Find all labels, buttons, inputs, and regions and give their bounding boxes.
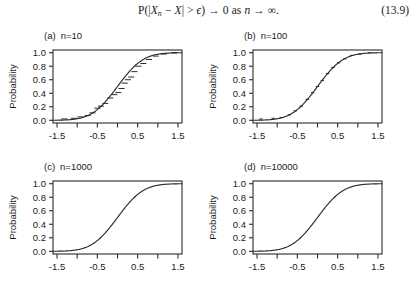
- panel-b-plot: 0.00.20.40.60.81.0Probability-1.5-0.50.5…: [200, 28, 408, 161]
- x-tick-label: -1.5: [249, 261, 265, 272]
- y-tick-label: 0.8: [233, 192, 246, 203]
- x-tick-label: 1.5: [371, 130, 384, 141]
- equation-gt: | >: [182, 4, 197, 16]
- y-tick-label: 0.4: [33, 88, 46, 99]
- y-axis-label: Probability: [207, 64, 218, 109]
- cdf-curve: [53, 53, 182, 121]
- y-tick-label: 0.8: [33, 192, 46, 203]
- y-tick-label: 0.0: [33, 246, 46, 257]
- cdf-curve: [253, 184, 382, 252]
- panel-a: (a)n=10 0.00.20.40.60.81.0Probability-1.…: [0, 28, 208, 161]
- x-tick-label: -0.5: [289, 261, 305, 272]
- y-tick-label: 0.4: [233, 88, 246, 99]
- equation-minus: −: [162, 4, 175, 16]
- panel-d: (d)n=10000 0.00.20.40.60.81.0Probability…: [200, 159, 408, 292]
- y-tick-label: 1.0: [233, 178, 246, 189]
- y-tick-label: 0.0: [233, 246, 246, 257]
- x-tick-label: 0.5: [331, 261, 344, 272]
- equation-to-infinity: → ∞.: [250, 4, 279, 16]
- y-tick-label: 0.2: [33, 101, 46, 112]
- y-tick-label: 0.2: [233, 101, 246, 112]
- x-tick-label: 0.5: [131, 130, 144, 141]
- y-tick-label: 0.4: [33, 219, 46, 230]
- x-tick-label: -1.5: [49, 130, 65, 141]
- equation-row: P(|Xn − X| > ϵ) → 0 as n → ∞. (13.9): [0, 0, 417, 28]
- panel-a-plot: 0.00.20.40.60.81.0Probability-1.5-0.50.5…: [0, 28, 208, 161]
- x-tick-label: 0.5: [131, 261, 144, 272]
- y-tick-label: 0.6: [33, 74, 46, 85]
- y-tick-label: 0.6: [233, 205, 246, 216]
- panel-b: (b)n=100 0.00.20.40.60.81.0Probability-1…: [200, 28, 408, 161]
- x-tick-label: -1.5: [249, 130, 265, 141]
- y-tick-label: 1.0: [33, 47, 46, 58]
- y-axis-label: Probability: [7, 195, 18, 240]
- y-tick-label: 0.0: [233, 115, 246, 126]
- panel-c: (c)n=1000 0.00.20.40.60.81.0Probability-…: [0, 159, 208, 292]
- y-tick-label: 0.8: [33, 61, 46, 72]
- y-tick-label: 1.0: [233, 47, 246, 58]
- x-tick-label: -0.5: [89, 130, 105, 141]
- empirical-step-marks: [259, 53, 371, 119]
- y-tick-label: 0.0: [33, 115, 46, 126]
- x-tick-label: 1.5: [171, 261, 184, 272]
- equation-var-x: X: [175, 4, 182, 16]
- equation-to-zero: ) → 0 as: [201, 4, 244, 16]
- y-tick-label: 0.6: [233, 74, 246, 85]
- y-tick-label: 1.0: [33, 178, 46, 189]
- panel-c-plot: 0.00.20.40.60.81.0Probability-1.5-0.50.5…: [0, 159, 208, 292]
- y-axis-label: Probability: [207, 195, 218, 240]
- equation-expression: P(|Xn − X| > ϵ) → 0 as n → ∞.: [0, 4, 417, 18]
- x-tick-label: 0.5: [331, 130, 344, 141]
- empirical-step-marks: [61, 53, 177, 119]
- y-tick-label: 0.6: [33, 205, 46, 216]
- figure-four-panel-cdf: (a)n=10 0.00.20.40.60.81.0Probability-1.…: [0, 28, 417, 294]
- cdf-curve: [53, 184, 182, 252]
- y-tick-label: 0.8: [233, 61, 246, 72]
- x-tick-label: -1.5: [49, 261, 65, 272]
- equation-var-xn: X: [151, 4, 158, 16]
- equation-number: (13.9): [381, 4, 409, 16]
- y-tick-label: 0.2: [233, 232, 246, 243]
- x-tick-label: 1.5: [371, 261, 384, 272]
- x-tick-label: -0.5: [289, 130, 305, 141]
- x-tick-label: -0.5: [89, 261, 105, 272]
- y-tick-label: 0.2: [33, 232, 46, 243]
- equation-lhs: P(|: [138, 4, 151, 16]
- y-tick-label: 0.4: [233, 219, 246, 230]
- x-tick-label: 1.5: [171, 130, 184, 141]
- panel-d-plot: 0.00.20.40.60.81.0Probability-1.5-0.50.5…: [200, 159, 408, 292]
- y-axis-label: Probability: [7, 64, 18, 109]
